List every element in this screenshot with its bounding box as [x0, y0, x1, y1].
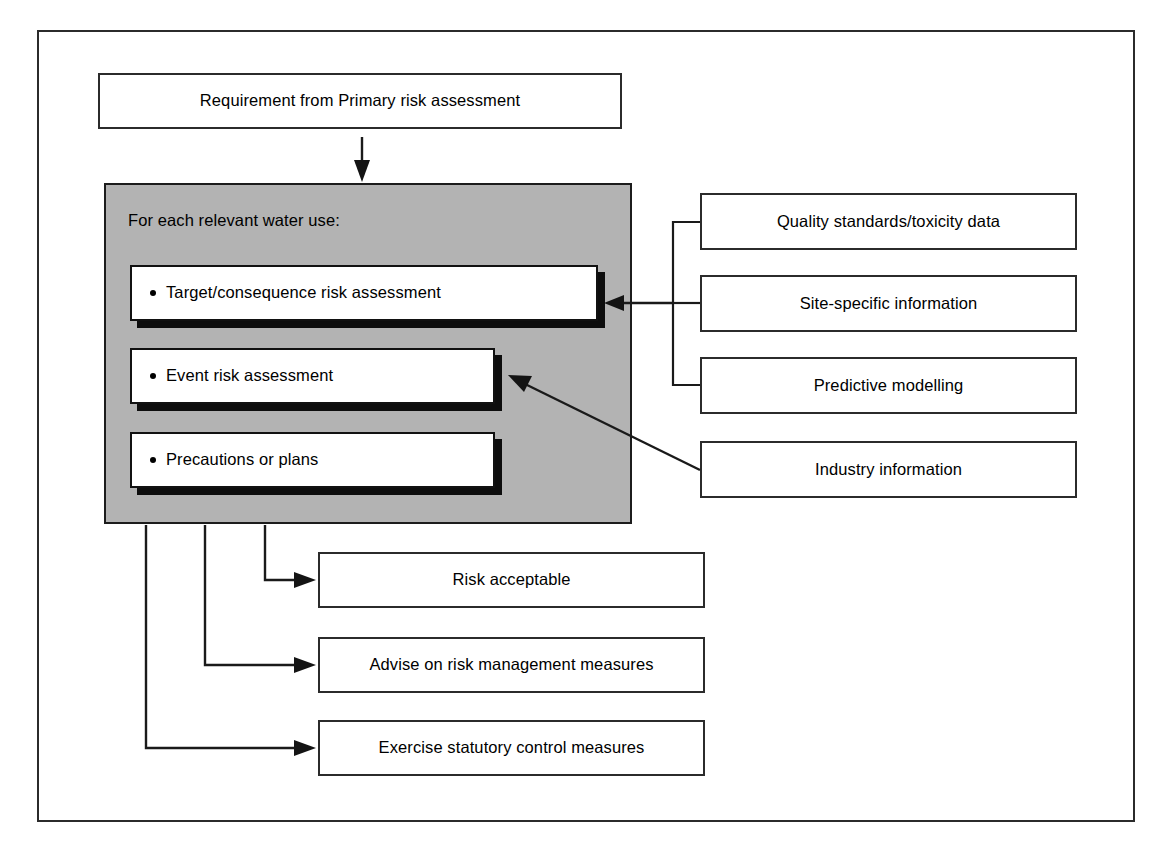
process-panel-caption: For each relevant water use: — [128, 211, 340, 230]
outcome-box-advise-risk-management: Advise on risk management measures — [318, 637, 705, 693]
outcome-box-exercise-statutory-control: Exercise statutory control measures — [318, 720, 705, 776]
source-box-site-specific-label: Site-specific information — [702, 294, 1075, 314]
source-box-industry-information: Industry information — [700, 441, 1077, 498]
source-box-quality-standards-label: Quality standards/toxicity data — [702, 212, 1075, 232]
source-box-site-specific: Site-specific information — [700, 275, 1077, 332]
source-box-predictive-modelling: Predictive modelling — [700, 357, 1077, 414]
input-box-requirement: Requirement from Primary risk assessment — [98, 73, 622, 129]
step-box-precautions: Precautions or plans — [130, 432, 495, 488]
bullet-icon — [150, 457, 156, 463]
step-box-target-consequence: Target/consequence risk assessment — [130, 265, 598, 321]
source-box-predictive-modelling-label: Predictive modelling — [702, 376, 1075, 396]
outcome-box-exercise-statutory-control-label: Exercise statutory control measures — [320, 738, 703, 758]
source-box-industry-information-label: Industry information — [702, 460, 1075, 480]
step-box-target-consequence-label: Target/consequence risk assessment — [132, 283, 596, 303]
bullet-icon — [150, 373, 156, 379]
outcome-box-advise-risk-management-label: Advise on risk management measures — [320, 655, 703, 675]
step-box-precautions-label: Precautions or plans — [132, 450, 493, 470]
outcome-box-risk-acceptable-label: Risk acceptable — [320, 570, 703, 590]
step-box-event-risk-label: Event risk assessment — [132, 366, 493, 386]
flowchart-canvas: Requirement from Primary risk assessment… — [0, 0, 1169, 853]
input-box-label: Requirement from Primary risk assessment — [100, 91, 620, 111]
bullet-icon — [150, 290, 156, 296]
step-box-event-risk: Event risk assessment — [130, 348, 495, 404]
outcome-box-risk-acceptable: Risk acceptable — [318, 552, 705, 608]
source-box-quality-standards: Quality standards/toxicity data — [700, 193, 1077, 250]
